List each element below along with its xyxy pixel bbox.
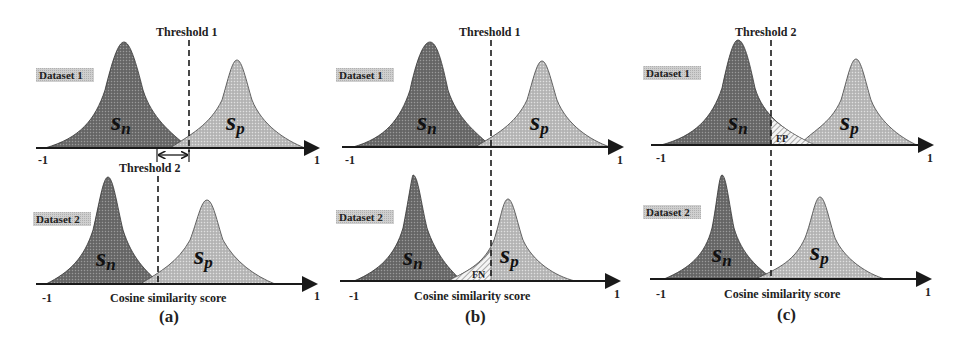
panel-caption: (b) bbox=[465, 307, 486, 326]
panel-b-bottom-plot: Dataset 2 FN sn sp -1 1 Cosine similarit… bbox=[336, 175, 620, 303]
dataset-label: Dataset 1 bbox=[646, 67, 690, 79]
panel-c: Dataset 1 Threshold 2 FP sn sp -1 1 Data… bbox=[643, 25, 933, 324]
panel-a: Dataset 1 Threshold 1 sn sp -1 1 Dataset… bbox=[33, 25, 320, 326]
panel-b: Dataset 1 Threshold 1 sn sp -1 1 Dataset… bbox=[336, 25, 623, 326]
panel-a-top-plot: Dataset 1 Threshold 1 sn sp -1 1 bbox=[36, 25, 320, 167]
panel-a-bottom-plot: Dataset 2 Threshold 2 sn sp -1 1 Cosine … bbox=[33, 161, 320, 305]
threshold-label: Threshold 1 bbox=[459, 25, 520, 39]
threshold-label: Threshold 2 bbox=[119, 161, 180, 175]
tick-min: -1 bbox=[38, 153, 48, 167]
tick-min: -1 bbox=[349, 289, 359, 303]
figure-canvas: Dataset 1 Threshold 1 sn sp -1 1 Dataset… bbox=[0, 0, 971, 338]
tick-min: -1 bbox=[656, 287, 666, 301]
tick-max: 1 bbox=[314, 289, 320, 303]
dataset-label: Dataset 2 bbox=[646, 206, 690, 218]
fn-label: FN bbox=[472, 269, 486, 280]
tick-min: -1 bbox=[656, 151, 666, 165]
panel-b-top-plot: Dataset 1 Threshold 1 sn sp -1 1 bbox=[336, 25, 623, 167]
x-axis-label: Cosine similarity score bbox=[110, 291, 227, 305]
tick-min: -1 bbox=[42, 291, 52, 305]
fp-label: FP bbox=[776, 133, 788, 144]
tick-max: 1 bbox=[614, 287, 620, 301]
dataset-label: Dataset 2 bbox=[339, 211, 383, 223]
tick-min: -1 bbox=[345, 153, 355, 167]
panel-c-bottom-plot: Dataset 2 sn sp -1 1 Cosine similarity s… bbox=[643, 175, 931, 301]
dataset-label: Dataset 2 bbox=[36, 213, 80, 225]
panel-c-top-plot: Dataset 1 Threshold 2 FP sn sp -1 1 bbox=[643, 25, 933, 165]
tick-max: 1 bbox=[927, 151, 933, 165]
x-axis-label: Cosine similarity score bbox=[724, 287, 841, 301]
dataset-label: Dataset 1 bbox=[39, 69, 83, 81]
tick-max: 1 bbox=[314, 153, 320, 167]
tick-max: 1 bbox=[925, 285, 931, 299]
x-axis-label: Cosine similarity score bbox=[414, 289, 531, 303]
panel-caption: (c) bbox=[777, 305, 796, 324]
panel-caption: (a) bbox=[159, 307, 179, 326]
dataset-label: Dataset 1 bbox=[339, 69, 383, 81]
threshold-label: Threshold 1 bbox=[156, 25, 217, 39]
threshold-label: Threshold 2 bbox=[735, 25, 796, 39]
tick-max: 1 bbox=[617, 153, 623, 167]
